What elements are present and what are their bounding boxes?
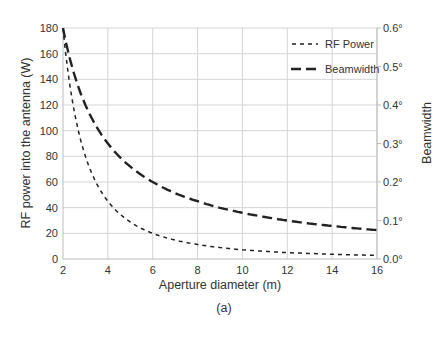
y2-tick-label: 0.5° <box>383 61 403 73</box>
x-tick-label: 10 <box>236 264 248 276</box>
x-tick-label: 14 <box>326 264 338 276</box>
y2-tick-label: 0.3° <box>383 138 403 150</box>
y2-tick-label: 0.2° <box>383 176 403 188</box>
chart: 2468101214160204060801001201401601800.0°… <box>0 0 442 341</box>
y2-tick-label: 0.1° <box>383 215 403 227</box>
y-tick-label: 40 <box>46 202 58 214</box>
y2-tick-label: 0.0° <box>383 253 403 265</box>
y-tick-label: 0 <box>52 253 58 265</box>
y-axis-label: RF power into the antenna (W) <box>19 58 33 229</box>
beamwidth-line <box>63 28 377 230</box>
y-tick-label: 140 <box>40 73 58 85</box>
x-tick-label: 16 <box>371 264 383 276</box>
y-tick-label: 100 <box>40 125 58 137</box>
x-tick-label: 8 <box>195 264 201 276</box>
y-tick-label: 160 <box>40 48 58 60</box>
legend-beamwidth-label: Beamwidth <box>325 63 379 75</box>
y2-tick-label: 0.4° <box>383 99 403 111</box>
x-tick-label: 6 <box>150 264 156 276</box>
x-tick-label: 2 <box>60 264 66 276</box>
x-tick-label: 4 <box>105 264 111 276</box>
y-tick-label: 180 <box>40 22 58 34</box>
caption: (a) <box>216 301 231 315</box>
x-tick-label: 12 <box>281 264 293 276</box>
axes: 2468101214160204060801001201401601800.0°… <box>40 22 403 276</box>
legend: RF Power Beamwidth <box>291 38 379 75</box>
y-tick-label: 60 <box>46 176 58 188</box>
x-axis-label: Aperture diameter (m) <box>159 278 281 292</box>
y2-axis-label: Beamwidth <box>420 102 434 164</box>
y-tick-label: 80 <box>46 150 58 162</box>
legend-rf-power-label: RF Power <box>325 38 374 50</box>
y-tick-label: 120 <box>40 99 58 111</box>
y-tick-label: 20 <box>46 227 58 239</box>
y2-tick-label: 0.6° <box>383 22 403 34</box>
